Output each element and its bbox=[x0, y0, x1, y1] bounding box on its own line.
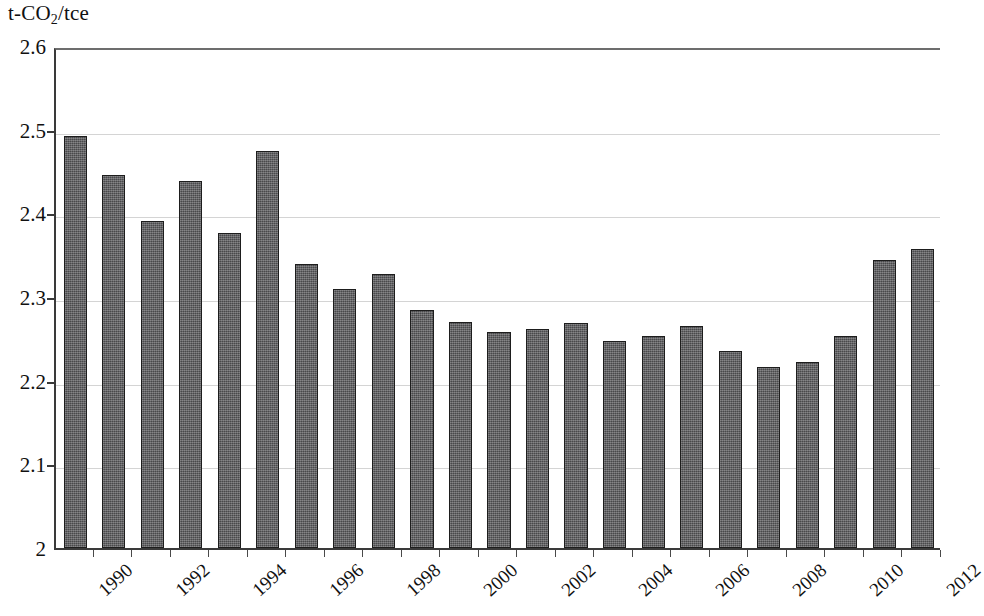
x-axis-tick-mark bbox=[478, 550, 479, 557]
bar bbox=[873, 260, 896, 548]
x-axis-tick-mark bbox=[901, 550, 902, 557]
bar bbox=[564, 323, 587, 548]
x-axis-tick-label: 2010 bbox=[865, 560, 906, 600]
y-axis-tick-label: 2.1 bbox=[0, 455, 46, 476]
bar bbox=[218, 233, 241, 548]
x-axis-tick-mark bbox=[93, 550, 94, 557]
x-axis-tick-mark bbox=[516, 550, 517, 557]
y-axis-unit-text: t-CO2/tce bbox=[8, 1, 89, 25]
y-axis-tick-label: 2 bbox=[0, 539, 46, 560]
x-axis-tick-mark bbox=[285, 550, 286, 557]
x-axis-tick-label: 2012 bbox=[942, 560, 983, 600]
x-axis-tick-mark bbox=[863, 550, 864, 557]
y-axis-tick-label: 2.6 bbox=[0, 37, 46, 58]
bar bbox=[410, 310, 433, 548]
y-axis-tick-mark bbox=[47, 465, 54, 467]
x-axis-tick-mark bbox=[786, 550, 787, 557]
bar bbox=[796, 362, 819, 548]
x-axis-tick-mark bbox=[439, 550, 440, 557]
y-axis-tick-label: 2.3 bbox=[0, 288, 46, 309]
bar bbox=[526, 329, 549, 548]
bar bbox=[141, 221, 164, 548]
x-axis-tick-mark bbox=[324, 550, 325, 557]
x-axis-tick-mark bbox=[593, 550, 594, 557]
bar bbox=[333, 289, 356, 548]
bar bbox=[757, 367, 780, 548]
bar bbox=[449, 322, 472, 548]
x-axis-tick-mark bbox=[632, 550, 633, 557]
y-axis-tick-mark bbox=[47, 214, 54, 216]
x-axis-tick-mark bbox=[824, 550, 825, 557]
y-axis-unit-label: t-CO2/tce bbox=[8, 0, 89, 29]
x-axis-tick-mark bbox=[208, 550, 209, 557]
x-axis-tick-label: 2004 bbox=[634, 560, 675, 600]
y-axis-unit-subscript: 2 bbox=[51, 12, 58, 27]
plot-area bbox=[54, 48, 940, 550]
x-axis-tick-label: 2008 bbox=[788, 560, 829, 600]
x-axis-tick-label: 1992 bbox=[172, 560, 213, 600]
bar bbox=[295, 264, 318, 548]
x-axis-tick-label: 1998 bbox=[403, 560, 444, 600]
y-axis-tick-label: 2.4 bbox=[0, 204, 46, 225]
bar bbox=[719, 351, 742, 548]
x-axis-tick-mark bbox=[401, 550, 402, 557]
bar bbox=[372, 274, 395, 548]
bar bbox=[834, 336, 857, 548]
y-axis-tick-label: 2.2 bbox=[0, 372, 46, 393]
x-axis-tick-label: 1994 bbox=[249, 560, 290, 600]
bar bbox=[642, 336, 665, 549]
x-axis-tick-mark bbox=[170, 550, 171, 557]
x-axis-tick-mark bbox=[362, 550, 363, 557]
x-axis-tick-label: 2002 bbox=[557, 560, 598, 600]
bar bbox=[911, 249, 934, 548]
bar bbox=[603, 341, 626, 548]
x-axis-tick-label: 1990 bbox=[95, 560, 136, 600]
y-axis-tick-label: 2.5 bbox=[0, 121, 46, 142]
x-axis-tick-label: 2006 bbox=[711, 560, 752, 600]
bar bbox=[256, 151, 279, 548]
x-axis-tick-mark bbox=[670, 550, 671, 557]
x-axis-tick-mark bbox=[247, 550, 248, 557]
x-axis-tick-mark bbox=[131, 550, 132, 557]
bar bbox=[680, 326, 703, 548]
bar bbox=[64, 136, 87, 548]
x-axis-tick-mark bbox=[747, 550, 748, 557]
bar bbox=[487, 332, 510, 548]
y-axis-tick-mark bbox=[47, 382, 54, 384]
x-axis-tick-mark bbox=[709, 550, 710, 557]
x-axis-tick-mark bbox=[555, 550, 556, 557]
bar bbox=[102, 175, 125, 548]
x-axis-tick-label: 2000 bbox=[480, 560, 521, 600]
y-axis-tick-mark bbox=[47, 131, 54, 133]
x-axis-tick-mark bbox=[940, 550, 941, 557]
y-axis-tick-mark bbox=[47, 298, 54, 300]
x-axis-tick-label: 1996 bbox=[326, 560, 367, 600]
bar bbox=[179, 181, 202, 548]
bar-series bbox=[56, 50, 940, 548]
